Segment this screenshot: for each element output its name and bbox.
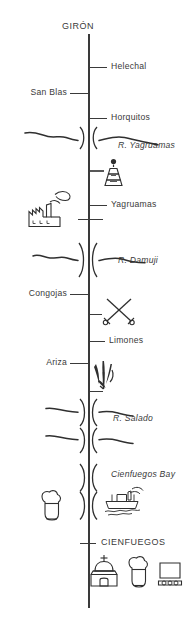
diagram-artwork bbox=[0, 0, 191, 625]
river-crossing-yagruamas bbox=[25, 127, 158, 149]
church-dome-icon bbox=[91, 555, 117, 586]
river-crossing-salado-upper bbox=[46, 399, 133, 426]
bay-brackets-upper bbox=[80, 464, 97, 492]
beacon-tower-icon bbox=[105, 159, 122, 186]
route-map-diagram: GIRÓN Helechal San Blas Horquitos Yagrua… bbox=[0, 0, 191, 625]
river-crossing-salado-lower bbox=[46, 428, 133, 453]
pitcher-vessel-icon bbox=[42, 491, 60, 520]
river-crossing-damuji bbox=[33, 243, 145, 277]
bay-brackets-lower bbox=[80, 492, 97, 520]
factory-icon bbox=[29, 191, 70, 226]
pitcher-vessel-icon-bottom bbox=[129, 557, 147, 587]
monument-screen-icon bbox=[159, 563, 182, 585]
crossed-swords-icon bbox=[103, 299, 134, 325]
steamship-icon bbox=[105, 487, 143, 515]
sugarcane-plant-icon bbox=[94, 361, 113, 389]
